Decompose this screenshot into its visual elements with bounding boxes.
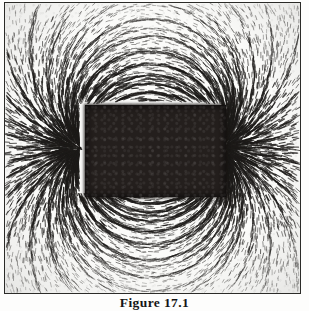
bar-magnet (85, 105, 226, 197)
figure-caption: Figure 17.1 (0, 296, 309, 311)
figure-caption-text: Figure 17.1 (0, 296, 309, 311)
figure-root: Figure 17.1 (0, 0, 309, 311)
magnet-filing-texture (85, 105, 226, 197)
photographic-plate (4, 2, 301, 294)
